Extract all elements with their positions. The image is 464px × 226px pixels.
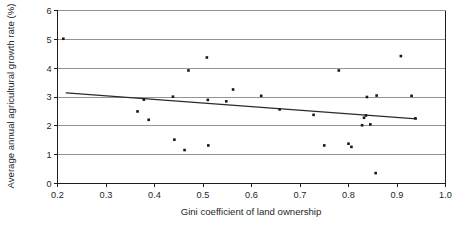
- data-point-16: [323, 144, 326, 147]
- x-tick-label-4: 0.6: [245, 190, 258, 200]
- x-tick-label-6: 0.8: [342, 190, 355, 200]
- data-point-6: [183, 149, 186, 152]
- x-tick-label-1: 0.3: [100, 190, 113, 200]
- data-point-26: [375, 94, 378, 97]
- data-point-7: [187, 69, 190, 72]
- x-tick-label-5: 0.7: [294, 190, 307, 200]
- data-point-2: [143, 98, 146, 101]
- data-point-3: [147, 118, 150, 121]
- scatter-chart-figure: 0.20.30.40.50.60.70.80.91.0 0123456 Gini…: [0, 0, 464, 226]
- data-point-19: [350, 146, 353, 149]
- x-axis-title: Gini coefficient of land ownership: [181, 206, 322, 217]
- data-point-11: [225, 100, 228, 103]
- x-tick-label-0: 0.2: [51, 190, 64, 200]
- data-point-25: [374, 172, 377, 175]
- y-axis-tick-labels: 0123456: [46, 6, 51, 189]
- data-point-15: [312, 114, 315, 117]
- data-point-0: [62, 37, 65, 40]
- data-point-20: [361, 124, 364, 127]
- x-tick-label-2: 0.4: [148, 190, 161, 200]
- data-point-17: [338, 69, 341, 72]
- chart-canvas: 0.20.30.40.50.60.70.80.91.0 0123456 Gini…: [0, 0, 464, 226]
- x-tick-label-3: 0.5: [197, 190, 210, 200]
- data-point-9: [207, 99, 210, 102]
- data-point-5: [173, 138, 176, 141]
- data-point-8: [206, 56, 209, 59]
- data-point-22: [365, 114, 368, 117]
- y-tick-label-2: 2: [46, 121, 51, 131]
- data-point-29: [414, 117, 417, 120]
- y-axis-title: Average annual agricultural growth rate …: [5, 4, 16, 189]
- data-point-23: [366, 96, 369, 99]
- data-point-21: [363, 116, 366, 119]
- data-point-14: [278, 108, 281, 111]
- data-point-1: [136, 110, 139, 113]
- y-tick-label-6: 6: [46, 6, 51, 16]
- data-point-4: [172, 95, 175, 98]
- x-tick-label-7: 0.9: [391, 190, 404, 200]
- data-point-24: [369, 123, 372, 126]
- y-tick-label-1: 1: [46, 150, 51, 160]
- data-point-12: [232, 88, 235, 91]
- data-point-13: [260, 95, 263, 98]
- x-tick-label-8: 1.0: [439, 190, 452, 200]
- data-point-18: [347, 142, 350, 145]
- data-point-28: [410, 95, 413, 98]
- y-tick-label-4: 4: [46, 64, 51, 74]
- y-tick-label-0: 0: [46, 179, 51, 189]
- y-tick-label-3: 3: [46, 92, 51, 102]
- y-tick-label-5: 5: [46, 35, 51, 45]
- x-axis-tick-labels: 0.20.30.40.50.60.70.80.91.0: [51, 190, 452, 200]
- data-point-27: [400, 55, 403, 58]
- data-point-10: [207, 144, 210, 147]
